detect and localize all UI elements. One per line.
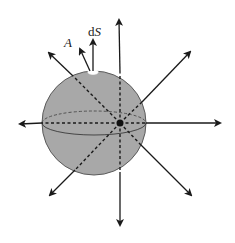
field-line-lower-right [141,145,191,195]
a-vector-arrow [80,49,90,71]
label-ds-s: S [95,24,102,39]
field-line-upper-right [142,52,190,102]
field-line-upper-left [49,53,73,76]
field-line-lower-left [50,170,75,195]
label-ds: dS [88,24,102,39]
label-a: A [63,35,72,50]
point-charge [117,120,124,127]
gauss-sphere-diagram: A dS [0,0,235,243]
field-line-up [119,20,120,73]
field-line-left [20,123,42,124]
